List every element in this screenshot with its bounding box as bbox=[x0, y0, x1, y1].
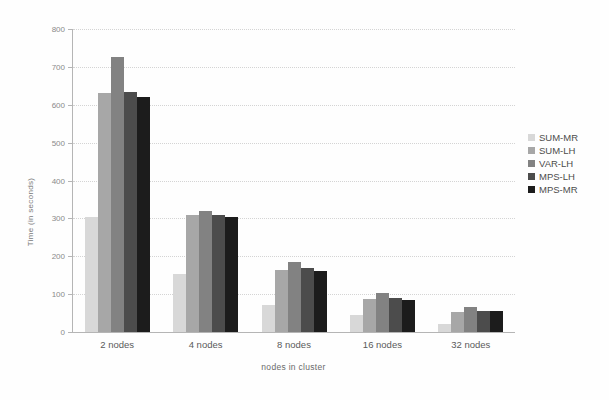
bar-mps-lh-1 bbox=[124, 92, 137, 333]
y-axis-title: Time (in seconds) bbox=[26, 178, 35, 246]
x-tick-label: 16 nodes bbox=[347, 339, 417, 350]
bar-var-lh-1 bbox=[111, 57, 124, 332]
y-tick-label: 300 bbox=[31, 214, 65, 223]
legend-item-mps-lh: MPS-LH bbox=[528, 170, 578, 183]
x-tick-label: 8 nodes bbox=[259, 339, 329, 350]
gridline-700 bbox=[73, 67, 515, 68]
x-tick-label: 2 nodes bbox=[82, 339, 152, 350]
y-tick-label: 400 bbox=[31, 176, 65, 185]
legend-swatch-icon bbox=[528, 160, 535, 167]
legend-swatch-icon bbox=[528, 134, 535, 141]
bar-sum-mr-5 bbox=[438, 324, 451, 332]
legend-label: SUM-LH bbox=[539, 145, 575, 156]
legend-swatch-icon bbox=[528, 186, 535, 193]
legend-item-sum-mr: SUM-MR bbox=[528, 131, 578, 144]
bar-mps-lh-3 bbox=[301, 268, 314, 332]
x-axis-title: nodes in cluster bbox=[72, 362, 515, 372]
x-tick-label: 4 nodes bbox=[171, 339, 241, 350]
y-tick-mark bbox=[68, 29, 72, 30]
bar-mps-mr-2 bbox=[225, 217, 238, 332]
legend-item-var-lh: VAR-LH bbox=[528, 157, 578, 170]
y-tick-mark bbox=[68, 67, 72, 68]
legend-label: VAR-LH bbox=[539, 158, 573, 169]
y-tick-mark bbox=[68, 256, 72, 257]
y-tick-label: 600 bbox=[31, 100, 65, 109]
chart-page: Time (in seconds) 0100200300400500600700… bbox=[0, 0, 609, 400]
legend-label: MPS-LH bbox=[539, 171, 575, 182]
bar-sum-lh-2 bbox=[186, 215, 199, 332]
y-tick-label: 800 bbox=[31, 25, 65, 34]
bar-mps-mr-3 bbox=[314, 271, 327, 332]
gridline-800 bbox=[73, 29, 515, 30]
legend-label: MPS-MR bbox=[539, 184, 578, 195]
bar-mps-mr-4 bbox=[402, 300, 415, 332]
y-tick-mark bbox=[68, 105, 72, 106]
y-tick-label: 700 bbox=[31, 62, 65, 71]
bar-sum-lh-4 bbox=[363, 299, 376, 332]
bar-sum-lh-5 bbox=[451, 312, 464, 332]
x-tick-label: 32 nodes bbox=[436, 339, 506, 350]
legend-item-mps-mr: MPS-MR bbox=[528, 183, 578, 196]
bar-mps-lh-4 bbox=[389, 298, 402, 332]
y-tick-mark bbox=[68, 332, 72, 333]
bar-var-lh-3 bbox=[288, 262, 301, 332]
y-tick-label: 500 bbox=[31, 138, 65, 147]
legend-item-sum-lh: SUM-LH bbox=[528, 144, 578, 157]
legend: SUM-MRSUM-LHVAR-LHMPS-LHMPS-MR bbox=[528, 131, 578, 196]
y-tick-mark bbox=[68, 143, 72, 144]
bar-sum-mr-2 bbox=[173, 274, 186, 332]
bar-var-lh-5 bbox=[464, 307, 477, 332]
y-tick-mark bbox=[68, 218, 72, 219]
legend-swatch-icon bbox=[528, 147, 535, 154]
y-tick-label: 0 bbox=[31, 328, 65, 337]
bar-sum-mr-4 bbox=[350, 315, 363, 332]
bar-mps-mr-1 bbox=[137, 97, 150, 332]
y-tick-mark bbox=[68, 181, 72, 182]
y-tick-label: 200 bbox=[31, 252, 65, 261]
bar-var-lh-4 bbox=[376, 293, 389, 332]
y-tick-mark bbox=[68, 294, 72, 295]
bar-mps-lh-5 bbox=[477, 311, 490, 332]
bar-sum-lh-3 bbox=[275, 270, 288, 332]
bar-mps-mr-5 bbox=[490, 311, 503, 332]
y-tick-label: 100 bbox=[31, 290, 65, 299]
bar-sum-mr-3 bbox=[262, 305, 275, 332]
bar-mps-lh-2 bbox=[212, 215, 225, 332]
bar-var-lh-2 bbox=[199, 211, 212, 332]
bar-sum-mr-1 bbox=[85, 217, 98, 332]
legend-label: SUM-MR bbox=[539, 132, 578, 143]
legend-swatch-icon bbox=[528, 173, 535, 180]
plot-area: 01002003004005006007008002 nodes4 nodes8… bbox=[72, 29, 515, 333]
bar-sum-lh-1 bbox=[98, 93, 111, 332]
